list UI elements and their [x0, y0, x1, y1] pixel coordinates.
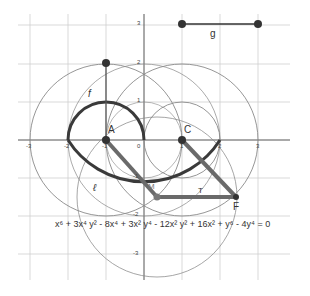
label-t: T [198, 186, 203, 195]
grid [18, 14, 290, 280]
label-M: M [148, 182, 155, 191]
x-tick-1: 1 [180, 143, 183, 149]
x-tick-3: 3 [256, 143, 259, 149]
point-top[interactable] [102, 59, 110, 67]
label-A: A [108, 124, 115, 135]
y-tick-1: 1 [137, 97, 140, 103]
label-f: f [88, 88, 91, 99]
point-F[interactable] [233, 194, 239, 200]
x-tick-neg3: -3 [26, 143, 31, 149]
label-F: F [233, 201, 239, 212]
label-l: ℓ [93, 182, 96, 193]
point-g1[interactable] [178, 20, 186, 28]
curve-equation: x⁶ + 3x⁴ y² - 8x⁴ + 3x² y⁴ - 12x² y² + 1… [55, 219, 270, 229]
label-C: C [184, 124, 191, 135]
y-tick-neg2: -2 [133, 211, 138, 217]
y-tick-neg3: -3 [133, 250, 138, 256]
y-tick-3: 3 [137, 20, 140, 26]
y-tick-neg1: -1 [133, 173, 138, 179]
point-M[interactable] [154, 194, 161, 201]
x-tick-neg2: -2 [64, 143, 69, 149]
x-tick-neg1: -1 [102, 143, 107, 149]
y-tick-2: 2 [137, 59, 140, 65]
label-g: g [210, 28, 216, 39]
x-tick-0: 0 [137, 143, 140, 149]
point-g2[interactable] [254, 20, 262, 28]
geometry-canvas[interactable] [0, 0, 310, 296]
x-tick-2: 2 [218, 143, 221, 149]
axes [18, 14, 290, 280]
